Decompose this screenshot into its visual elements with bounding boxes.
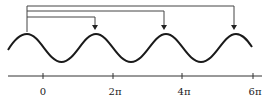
tick-label-2pi: 2π [109, 86, 122, 97]
period-brackets [27, 6, 234, 32]
tick-label-6pi: 6π [249, 86, 262, 97]
x-axis [8, 73, 262, 79]
periodicity-diagram: 0 2π 4π 6π [0, 0, 268, 104]
sine-wave [8, 34, 252, 62]
arrowhead-icon [231, 25, 237, 30]
arrowheads [92, 25, 237, 30]
arrow-to-peak-3 [27, 6, 234, 26]
arrow-to-peak-1 [27, 17, 95, 26]
tick-label-4pi: 4π [178, 86, 191, 97]
arrowhead-icon [161, 25, 167, 30]
arrowhead-icon [92, 25, 98, 30]
tick-label-0: 0 [40, 86, 46, 97]
